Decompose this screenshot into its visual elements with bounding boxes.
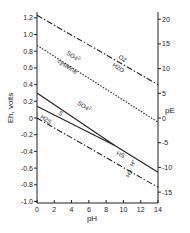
y-tick-label: 1.2 — [23, 14, 33, 21]
y-tick-label: 0.4 — [23, 81, 33, 88]
y2-tick-label: 20 — [162, 16, 170, 23]
y2-tick-label: 15 — [162, 40, 170, 47]
y2-tick-label: -5 — [162, 139, 168, 146]
y-tick-label: -0.6 — [21, 165, 33, 172]
y2-tick-label: -15 — [162, 189, 172, 196]
y2-tick-label: 0 — [162, 115, 166, 122]
x-tick-label: 6 — [87, 206, 91, 213]
x-tick-label: 8 — [104, 206, 108, 213]
y-tick-label: 0 — [29, 115, 33, 122]
series-line — [37, 15, 158, 84]
y2-tick-label: 10 — [162, 65, 170, 72]
y-tick-label: -0.8 — [21, 181, 33, 188]
label-so4-dotted: SO42- — [65, 49, 83, 64]
series-line — [37, 106, 115, 145]
x-axis-label: pH — [87, 214, 97, 223]
series-line — [37, 93, 158, 172]
y-tick-label: 0.8 — [23, 48, 33, 55]
y2-tick-label: -10 — [162, 164, 172, 171]
y-tick-label: 1.0 — [23, 31, 33, 38]
x-tick-label: 4 — [70, 206, 74, 213]
annotations: O2 H2O SO42- cysteine SO42- S H2S HS- H+… — [39, 49, 137, 179]
axes — [37, 12, 158, 203]
series-line — [37, 45, 158, 122]
label-so4-solid: SO42- — [76, 99, 94, 114]
y-tick-label: -0.2 — [21, 131, 33, 138]
eh-ph-diagram: 1.21.00.80.60.40.20-0.2-0.4-0.6-0.8-1.0 … — [0, 0, 190, 233]
label-h2o: H2O — [111, 62, 125, 74]
label-hs: HS- — [116, 149, 128, 159]
label-h2s: H2S — [39, 114, 52, 125]
y-ticks-left: 1.21.00.80.60.40.20-0.2-0.4-0.6-0.8-1.0 — [21, 14, 37, 205]
x-tick-label: 10 — [120, 206, 128, 213]
series-lines — [37, 15, 158, 187]
x-tick-label: 0 — [35, 206, 39, 213]
y-tick-label: -1.0 — [21, 198, 33, 205]
x-ticks: 02468101214 — [35, 200, 162, 213]
y-tick-label: 0.2 — [23, 98, 33, 105]
label-s: S — [57, 110, 64, 117]
y2-axis-label: pE — [165, 106, 175, 115]
x-tick-label: 14 — [154, 206, 162, 213]
y-axis-label: Eh, volts — [6, 93, 15, 124]
series-line — [37, 118, 158, 187]
y2-tick-label: 5 — [162, 90, 166, 97]
x-tick-label: 2 — [52, 206, 56, 213]
y-tick-label: 0.6 — [23, 64, 33, 71]
x-tick-label: 12 — [137, 206, 145, 213]
y-tick-label: -0.4 — [21, 148, 33, 155]
label-h2: H2 — [125, 168, 134, 178]
